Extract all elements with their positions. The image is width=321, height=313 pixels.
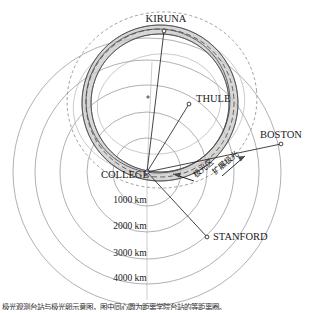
figure-caption: 极光观测台站与极光卵示意图，图中同心圆为距离学院台站的等距离圈。 [2,302,226,312]
ray-college-kiruna [147,31,164,172]
aurora-map-figure: KIRUNA THULE BOSTON COLLEGE STANFORD 100… [0,0,321,313]
range-ring-label-group: 1000 km 2000 km 3000 km 4000 km [113,195,147,283]
ray-college-thule [147,104,189,172]
station-label-boston: BOSTON [260,129,302,140]
station-dot-kiruna[interactable] [162,29,166,33]
station-label-college: COLLEGE [101,169,149,180]
figure-caption-group: 极光观测台站与极光卵示意图，图中同心圆为距离学院台站的等距离圈。 [2,302,226,312]
station-label-stanford: STANFORD [213,231,268,242]
station-label-thule: THULE [196,93,230,104]
range-ring-label-4000: 4000 km [113,273,147,283]
station-dot-boston[interactable] [279,142,283,146]
range-ring-label-1000: 1000 km [113,195,147,205]
aurora-map-canvas: KIRUNA THULE BOSTON COLLEGE STANFORD 100… [0,0,321,313]
station-dot-thule[interactable] [187,102,191,106]
station-dot-stanford[interactable] [205,235,209,239]
station-label-kiruna: KIRUNA [146,13,187,24]
grid-meridian-up [147,62,152,172]
range-ring-label-3000: 3000 km [113,248,147,258]
range-ring-label-2000: 2000 km [113,221,147,231]
grid-ellipse-inner [91,46,228,162]
pole-marker [147,96,149,98]
